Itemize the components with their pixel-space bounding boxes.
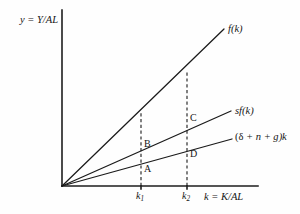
curve-production-fk [62, 29, 224, 186]
point-label-b: B [144, 139, 151, 149]
x-tick-label-k2: k2 [182, 191, 190, 203]
point-label-d: D [190, 149, 197, 159]
curve-label-production: f(k) [228, 24, 243, 35]
curve-label-saving: sf(k) [235, 106, 254, 117]
x-tick-label-k1: k1 [136, 191, 144, 203]
point-label-a: A [144, 164, 151, 174]
k2-subscript: 2 [186, 195, 190, 203]
solow-model-figure: y = Y/AL k = K/AL f(k) sf(k) (δ + n + g)… [0, 0, 300, 214]
point-label-c: C [190, 113, 197, 123]
k1-subscript: 1 [140, 195, 144, 203]
depreciation-close-paren-k: )k [279, 131, 287, 142]
depreciation-terms: + n + g [243, 131, 278, 142]
x-axis-label: k = K/AL [204, 192, 243, 203]
plot-canvas [0, 0, 300, 214]
curve-label-depreciation: (δ + n + g)k [235, 132, 287, 143]
y-axis-label: y = Y/AL [20, 15, 58, 26]
